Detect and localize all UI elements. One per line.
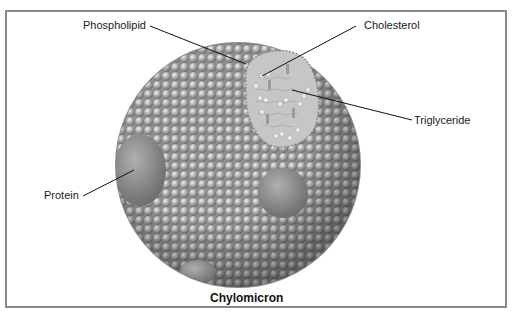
label-triglyceride: Triglyceride	[414, 114, 470, 126]
figure-title: Chylomicron	[210, 291, 283, 305]
label-cholesterol: Cholesterol	[364, 19, 420, 31]
label-protein: Protein	[44, 189, 79, 201]
label-phospholipid: Phospholipid	[83, 19, 146, 31]
chylomicron-illustration	[0, 0, 512, 320]
